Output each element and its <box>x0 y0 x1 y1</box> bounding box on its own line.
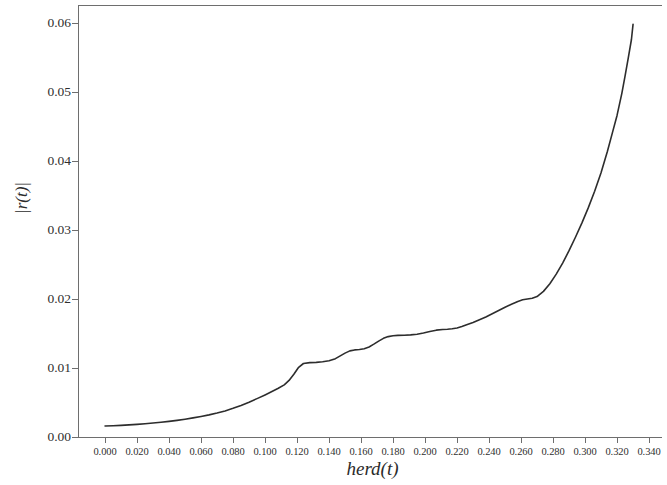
y-tick-mark <box>72 230 78 231</box>
x-tick-mark <box>201 438 202 443</box>
x-tick-mark <box>361 438 362 443</box>
x-tick-mark <box>329 438 330 443</box>
x-tick-mark <box>425 438 426 443</box>
y-axis-title: |r(t)| <box>12 168 32 228</box>
x-tick-mark <box>489 438 490 443</box>
x-tick-label: 0.340 <box>625 446 667 458</box>
x-tick-mark <box>585 438 586 443</box>
y-tick-mark <box>72 368 78 369</box>
y-tick-mark <box>72 437 78 438</box>
x-tick-mark <box>617 438 618 443</box>
y-tick-label: 0.01 <box>23 360 71 375</box>
x-tick-mark <box>169 438 170 443</box>
y-tick-label: 0.06 <box>23 15 71 30</box>
x-tick-mark <box>457 438 458 443</box>
x-tick-mark <box>649 438 650 443</box>
x-tick-mark <box>233 438 234 443</box>
x-tick-mark <box>265 438 266 443</box>
y-tick-label: 0.00 <box>23 429 71 444</box>
y-tick-mark <box>72 299 78 300</box>
y-tick-mark <box>72 161 78 162</box>
y-tick-label: 0.05 <box>23 84 71 99</box>
x-tick-mark <box>137 438 138 443</box>
x-axis-line <box>78 437 662 438</box>
x-tick-mark <box>105 438 106 443</box>
y-tick-label: 0.02 <box>23 291 71 306</box>
data-series-line <box>78 5 662 437</box>
x-tick-mark <box>297 438 298 443</box>
x-tick-mark <box>521 438 522 443</box>
plot-area <box>78 5 662 437</box>
x-tick-mark <box>553 438 554 443</box>
x-tick-mark <box>393 438 394 443</box>
y-tick-mark <box>72 23 78 24</box>
y-tick-mark <box>72 92 78 93</box>
series-path <box>105 24 633 426</box>
y-tick-label: 0.04 <box>23 153 71 168</box>
x-axis-title: herd(t) <box>0 458 667 480</box>
chart-figure: 0.0000.0200.0400.0600.0800.1000.1200.140… <box>0 0 667 485</box>
